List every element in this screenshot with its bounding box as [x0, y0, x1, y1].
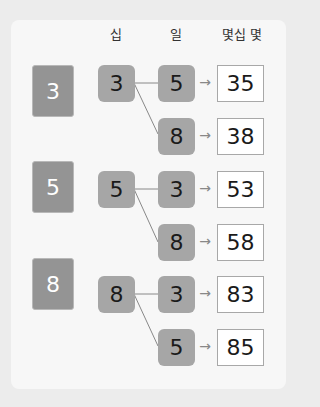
source-number-tile: 8: [32, 258, 74, 310]
ones-tile: 8: [158, 224, 195, 261]
result-box: 38: [217, 118, 264, 155]
header-ones: 일: [160, 24, 192, 43]
tens-tile: 5: [98, 171, 135, 208]
header-result: 몇십 몇: [212, 24, 272, 43]
arrow-icon: →: [196, 285, 214, 301]
source-number-tile: 3: [32, 65, 74, 117]
tens-tile: 8: [98, 276, 135, 313]
header-tens: 십: [100, 24, 132, 43]
ones-tile: 5: [158, 65, 195, 102]
arrow-icon: →: [196, 180, 214, 196]
arrow-icon: →: [196, 338, 214, 354]
source-number-tile: 5: [32, 161, 74, 213]
ones-tile: 8: [158, 118, 195, 155]
result-box: 35: [217, 65, 264, 102]
result-box: 85: [217, 329, 264, 366]
ones-tile: 3: [158, 171, 195, 208]
tens-tile: 3: [98, 65, 135, 102]
arrow-icon: →: [196, 233, 214, 249]
result-box: 58: [217, 224, 264, 261]
arrow-icon: →: [196, 127, 214, 143]
arrow-icon: →: [196, 74, 214, 90]
ones-tile: 3: [158, 276, 195, 313]
result-box: 83: [217, 276, 264, 313]
result-box: 53: [217, 171, 264, 208]
ones-tile: 5: [158, 329, 195, 366]
